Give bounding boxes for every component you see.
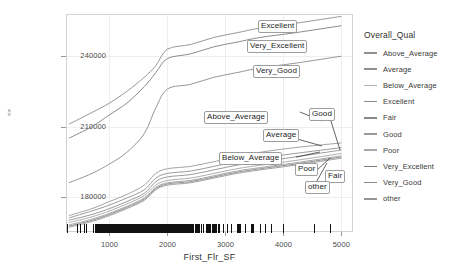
legend-swatch-icon: [364, 149, 377, 151]
y-axis-tick-label: 240000: [80, 51, 106, 60]
legend-item-poor[interactable]: Poor: [364, 142, 464, 158]
x-axis-title: First_Flr_SF: [66, 252, 353, 262]
legend-item-below_average[interactable]: Below_Average: [364, 77, 464, 93]
legend-item-good[interactable]: Good: [364, 126, 464, 142]
y-axis-tick-label: 180000: [80, 192, 106, 201]
grid-line-horizontal: [67, 56, 352, 57]
legend-item-label: Average: [383, 65, 412, 74]
legend-swatch-icon: [364, 52, 377, 54]
legend-title: Overall_Qual: [364, 30, 464, 40]
legend-item-label: Fair: [383, 113, 396, 122]
grid-line-vertical: [341, 15, 342, 231]
callout-label-very_excellent: Very_Excellent: [247, 40, 307, 53]
y-axis-tick-mark: [61, 56, 66, 57]
legend-swatch-icon: [364, 182, 377, 184]
y-axis-tick-label: 210000: [80, 122, 106, 131]
callout-label-poor: Poor: [295, 163, 318, 176]
x-axis-tick-label: 4000: [261, 240, 305, 249]
grid-line-horizontal: [67, 127, 352, 128]
legend-item-label: Good: [383, 130, 402, 139]
x-axis-tick-label: 2000: [145, 240, 189, 249]
legend: Overall_Qual Above_AverageAverageBelow_A…: [364, 30, 464, 207]
legend-item-excellent[interactable]: Excellent: [364, 94, 464, 110]
legend-item-above_average[interactable]: Above_Average: [364, 45, 464, 61]
chart-root: 18000021000024000010002000300040005000 <…: [0, 0, 464, 274]
y-axis-tick-mark: [61, 127, 66, 128]
legend-swatch-icon: [364, 117, 377, 119]
legend-item-fair[interactable]: Fair: [364, 110, 464, 126]
legend-item-label: other: [383, 194, 401, 203]
legend-swatch-icon: [364, 101, 377, 103]
grid-line-vertical: [109, 15, 110, 231]
callout-label-excellent: Excellent: [258, 20, 297, 33]
legend-item-label: Poor: [383, 146, 399, 155]
callout-label-above_average: Above_Average: [204, 111, 268, 124]
x-axis-tick-label: 3000: [203, 240, 247, 249]
legend-item-label: Below_Average: [383, 81, 437, 90]
legend-item-label: Very_Excellent: [383, 162, 434, 171]
legend-item-label: Above_Average: [383, 49, 438, 58]
x-axis-tick-label: 1000: [87, 240, 131, 249]
legend-item-average[interactable]: Average: [364, 61, 464, 77]
callout-label-average: Average: [263, 129, 299, 142]
rug-plot: [67, 224, 352, 233]
legend-swatch-icon: [364, 133, 377, 135]
legend-swatch-icon: [364, 85, 377, 87]
callout-label-other: other: [305, 181, 330, 194]
y-axis-tick-mark: [61, 197, 66, 198]
legend-swatch-icon: [364, 68, 377, 70]
callout-label-good: Good: [309, 108, 335, 121]
y-axis-title: <>: [6, 109, 12, 116]
legend-items: Above_AverageAverageBelow_AverageExcelle…: [364, 45, 464, 207]
callout-label-below_average: Below_Average: [219, 152, 282, 165]
callout-label-very_good: Very_Good: [253, 65, 300, 78]
legend-swatch-icon: [364, 166, 377, 168]
legend-item-label: Excellent: [383, 97, 414, 106]
grid-line-horizontal: [67, 197, 352, 198]
legend-item-label: Very_Good: [383, 178, 421, 187]
legend-swatch-icon: [364, 198, 377, 200]
legend-item-very_good[interactable]: Very_Good: [364, 175, 464, 191]
x-axis-tick-label: 5000: [319, 240, 363, 249]
grid-line-vertical: [167, 15, 168, 231]
legend-item-very_excellent[interactable]: Very_Excellent: [364, 158, 464, 174]
legend-item-other[interactable]: other: [364, 191, 464, 207]
